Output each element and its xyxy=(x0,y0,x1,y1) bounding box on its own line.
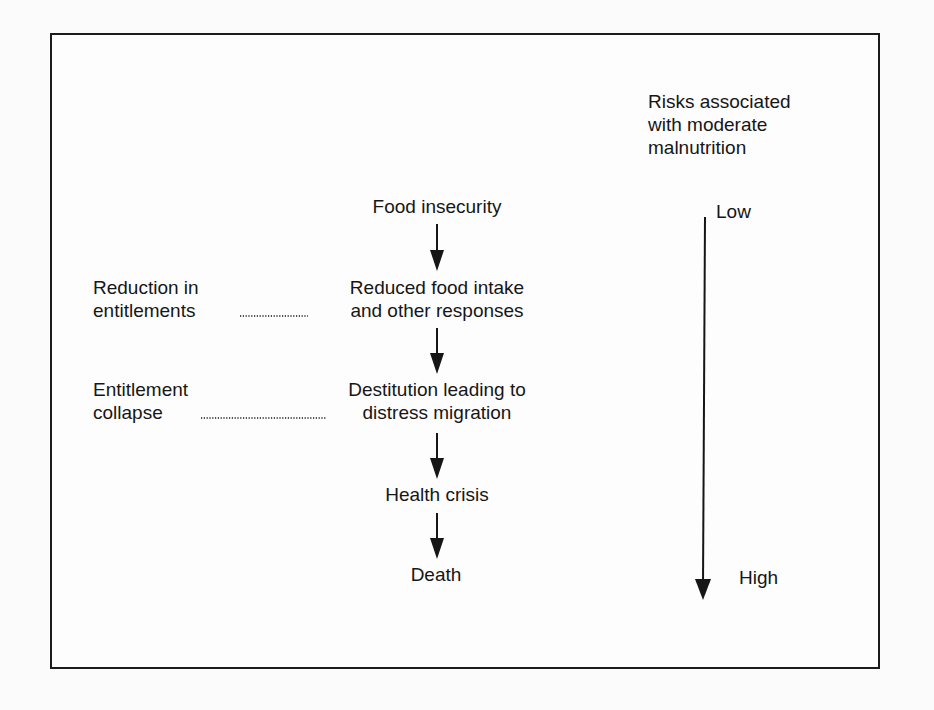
risk-high-label: High xyxy=(739,566,778,589)
node-health-crisis: Health crisis xyxy=(385,483,488,506)
risk-low-label: Low xyxy=(716,200,751,223)
label-entitlement-collapse: Entitlement collapse xyxy=(93,378,188,424)
node-destitution: Destitution leading to distress migratio… xyxy=(348,378,525,424)
node-death: Death xyxy=(411,563,462,586)
risk-scale-title: Risks associated with moderate malnutrit… xyxy=(648,90,791,159)
node-food-insecurity: Food insecurity xyxy=(373,195,502,218)
label-reduction-in-entitlements: Reduction in entitlements xyxy=(93,276,199,322)
node-reduced-food-intake: Reduced food intake and other responses xyxy=(350,276,524,322)
